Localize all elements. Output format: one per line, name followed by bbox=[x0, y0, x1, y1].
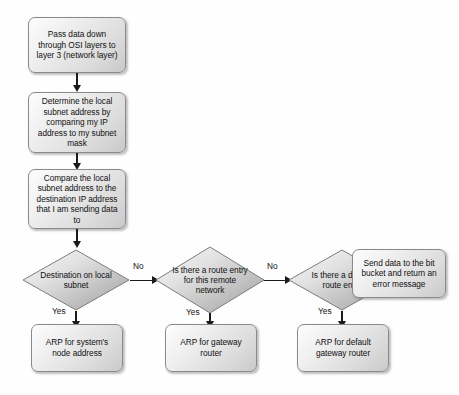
process-node-send-bit-bucket-label: Send data to the bit bucket and return a… bbox=[357, 258, 441, 290]
process-node-arp-default-gateway[interactable]: ARP for default gateway router bbox=[297, 324, 389, 372]
process-node-send-bit-bucket[interactable]: Send data to the bit bucket and return a… bbox=[352, 249, 446, 298]
edge-label-dest-local-no: No bbox=[133, 262, 144, 271]
process-node-compare-subnet-label: Compare the local subnet address to the … bbox=[33, 173, 121, 226]
edge-label-route-entry-yes: Yes bbox=[186, 308, 200, 317]
process-node-determine-subnet[interactable]: Determine the local subnet address by co… bbox=[28, 92, 126, 153]
process-node-arp-node[interactable]: ARP for system's node address bbox=[31, 324, 123, 372]
diamond-shape-route-entry bbox=[155, 246, 265, 314]
process-node-arp-gateway[interactable]: ARP for gateway router bbox=[165, 324, 257, 372]
process-node-pass-data-label: Pass data down through OSI layers to lay… bbox=[33, 29, 121, 61]
decision-node-route-entry[interactable]: Is there a route entry for this remote n… bbox=[155, 246, 265, 314]
process-node-arp-gateway-label: ARP for gateway router bbox=[170, 337, 252, 358]
edge-label-default-route-yes: Yes bbox=[318, 307, 332, 316]
decision-node-dest-local[interactable]: Destination on local subnet bbox=[22, 249, 130, 311]
process-node-arp-default-gateway-label: ARP for default gateway router bbox=[302, 337, 384, 358]
process-node-determine-subnet-label: Determine the local subnet address by co… bbox=[33, 96, 121, 149]
arrow-pass-data-to-determine bbox=[73, 85, 81, 92]
arrow-compare-to-decision bbox=[73, 241, 81, 248]
flowchart-canvas: Pass data down through OSI layers to lay… bbox=[0, 0, 459, 395]
edge-label-route-entry-no: No bbox=[267, 262, 278, 271]
process-node-pass-data[interactable]: Pass data down through OSI layers to lay… bbox=[28, 17, 126, 73]
edge-label-dest-local-yes: Yes bbox=[52, 307, 66, 316]
diamond-shape-dest-local bbox=[22, 249, 130, 311]
process-node-arp-node-label: ARP for system's node address bbox=[36, 337, 118, 358]
process-node-compare-subnet[interactable]: Compare the local subnet address to the … bbox=[28, 169, 126, 229]
